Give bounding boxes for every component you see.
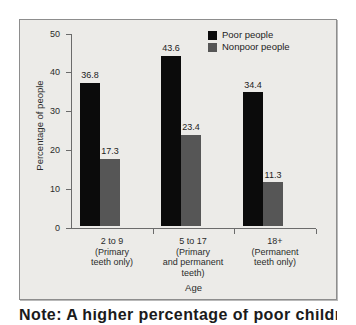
x-category-line: 2 to 9 [69,236,155,247]
y-tick-label-50: 50 [20,30,60,39]
x-category-label-2to9: 2 to 9 (Primary teeth only) [69,236,155,268]
bar-label-nonpoor-2to9: 17.3 [90,147,130,156]
y-tick-30 [66,111,71,112]
x-category-label-18plus: 18+ (Permanent teeth only) [232,236,318,268]
y-tick-20 [66,150,71,151]
legend-item-nonpoor: Nonpoor people [208,42,290,52]
x-category-line: (Permanent [232,247,318,258]
chart-legend: Poor people Nonpoor people [208,30,290,54]
legend-label-poor: Poor people [222,30,273,40]
plot-area: 50 40 30 20 10 0 Percentage of people 36… [20,20,336,299]
x-axis-title: Age [71,282,316,293]
x-category-line: 18+ [232,236,318,247]
legend-swatch-icon-nonpoor [208,43,217,52]
x-tick-1 [153,229,154,234]
x-axis-line [71,228,316,229]
y-tick-label-0: 0 [20,224,60,233]
caption-fragment: Note: A higher percentage of poor childr… [19,309,337,325]
caption-text: Note: A higher percentage of poor childr… [19,309,337,324]
y-axis-line [71,34,72,229]
bar-label-nonpoor-5to17: 23.4 [171,123,211,132]
y-tick-10 [66,189,71,190]
bar-nonpoor-18plus [263,182,283,226]
legend-swatch-icon-poor [208,31,217,40]
legend-label-nonpoor: Nonpoor people [222,42,290,52]
y-tick-50 [66,34,71,35]
bar-label-poor-2to9: 36.8 [70,71,110,80]
x-category-line: teeth only) [69,257,155,268]
bar-nonpoor-2to9 [100,159,120,227]
bar-nonpoor-5to17 [181,135,201,226]
x-category-line: teeth) [150,268,236,279]
x-category-label-5to17: 5 to 17 (Primary and permanent teeth) [150,236,236,278]
x-category-line: and permanent [150,257,236,268]
legend-item-poor: Poor people [208,30,290,40]
bar-poor-5to17 [161,56,181,226]
x-category-line: (Primary [69,247,155,258]
bar-label-nonpoor-18plus: 11.3 [253,171,293,180]
bar-poor-18plus [243,92,263,226]
x-category-line: teeth only) [232,257,318,268]
chart-figure: 50 40 30 20 10 0 Percentage of people 36… [19,19,337,300]
x-tick-3 [316,229,317,234]
bar-label-poor-5to17: 43.6 [151,44,191,53]
x-tick-2 [234,229,235,234]
y-axis-title: Percentage of people [34,46,45,206]
y-tick-0 [66,228,71,229]
x-category-line: 5 to 17 [150,236,236,247]
bar-label-poor-18plus: 34.4 [233,81,273,90]
x-category-line: (Primary [150,247,236,258]
